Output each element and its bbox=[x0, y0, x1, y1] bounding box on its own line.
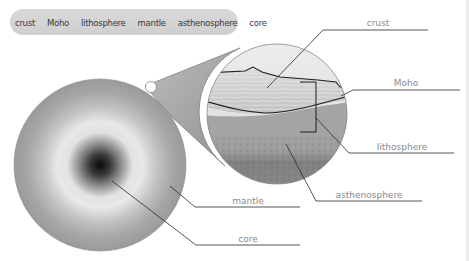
label-mantle: mantle bbox=[232, 196, 264, 206]
earth-diagram: crust Moho lithosphere asthenosphere man… bbox=[0, 0, 469, 261]
label-core: core bbox=[238, 234, 258, 244]
label-crust: crust bbox=[367, 18, 390, 28]
label-lithosphere: lithosphere bbox=[377, 142, 428, 152]
magnify-spot bbox=[146, 82, 157, 93]
cross-section bbox=[200, 40, 360, 193]
label-asthenosphere: asthenosphere bbox=[336, 190, 403, 200]
earth-globe bbox=[14, 79, 186, 251]
label-moho: Moho bbox=[394, 78, 419, 88]
